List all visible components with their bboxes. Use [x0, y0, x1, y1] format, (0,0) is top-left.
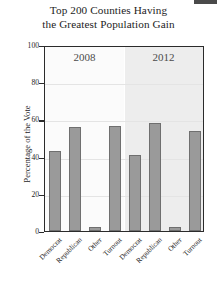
y-tick-label-60: 60 [13, 115, 39, 124]
y-tick-label-20: 20 [13, 190, 39, 199]
panel-divider [124, 47, 125, 231]
y-tick-label-100: 100 [13, 41, 39, 50]
bar-2012-democrat [129, 155, 141, 231]
chart-title-line-1: Top 200 Counties Having [0, 3, 217, 17]
y-tick-mark-60 [39, 120, 44, 121]
gridline-60 [45, 121, 203, 122]
bar-2008-other [89, 227, 101, 231]
bar-2012-other [169, 227, 181, 231]
y-tick-label-40: 40 [13, 153, 39, 162]
y-tick-mark-80 [39, 83, 44, 84]
y-tick-mark-100 [39, 46, 44, 47]
chart-title-line-2: the Greatest Population Gain [0, 17, 217, 31]
y-tick-label-80: 80 [13, 78, 39, 87]
bar-2008-democrat [49, 151, 61, 231]
bar-2012-turnout [189, 131, 201, 231]
y-tick-mark-20 [39, 195, 44, 196]
panel-title-2008: 2008 [45, 51, 124, 63]
y-tick-mark-40 [39, 158, 44, 159]
panel-title-2012: 2012 [124, 51, 203, 63]
y-tick-mark-0 [39, 232, 44, 233]
plot-area: 2008 2012 [44, 46, 204, 232]
bar-2008-republican [69, 127, 81, 231]
y-tick-label-0: 0 [13, 227, 39, 236]
figure: Top 200 Counties Having the Greatest Pop… [0, 0, 217, 293]
bar-2008-turnout [109, 126, 121, 231]
bar-2012-republican [149, 123, 161, 231]
chart-title: Top 200 Counties Having the Greatest Pop… [0, 3, 217, 31]
gridline-80 [45, 84, 203, 85]
